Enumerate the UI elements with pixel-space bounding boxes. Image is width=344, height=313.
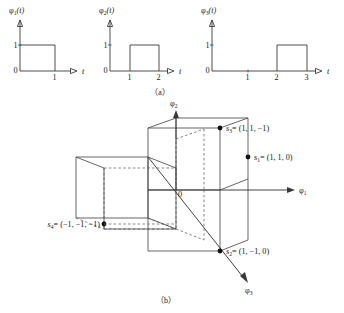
phi1-x-arrow (71, 68, 78, 73)
phi3-axis-arrow (240, 272, 248, 283)
plot-phi2: φ2(t) 1 0 1 2 t (99, 6, 182, 82)
cube-right-front-face (148, 128, 220, 190)
cube-right-edge-tl (148, 118, 176, 128)
phi1-ylabel-1: 1 (14, 41, 18, 50)
point-s1-marker (246, 155, 251, 160)
phi1-xlabel-0: 0 (14, 66, 18, 75)
phi2-xlabel-0: 0 (104, 66, 108, 75)
phi3-axis-label: φ3(t) (201, 6, 217, 16)
phi2-axis-arrow (173, 110, 179, 118)
phi3-x-axis-label: t (327, 67, 330, 76)
phi3-axis-3d-label: φ3 (245, 286, 253, 296)
point-s1-label: s1= (1, 1, 0) (254, 153, 293, 163)
phi2-xtick-2: 2 (157, 73, 161, 82)
cube-left-front-face (76, 157, 148, 218)
cube-right-edge-br (220, 179, 248, 190)
phi3-x-arrow (316, 68, 323, 73)
phi3-ylabel-1: 1 (206, 41, 210, 50)
phi1-axis-label: φ1(t) (9, 6, 25, 16)
hidden-edge-10 (176, 229, 204, 240)
phi3-axis-3d (148, 157, 243, 277)
plot-phi3: φ3(t) 1 0 1 2 3 t (201, 6, 330, 82)
phi2-ylabel-1: 1 (104, 41, 108, 50)
phi1-axis-3d-label: φ1 (299, 186, 307, 196)
phi2-xtick-1: 1 (128, 73, 132, 82)
cube-left-edge-br (148, 218, 176, 229)
phi2-x-arrow (168, 68, 175, 73)
plot-phi1: φ1(t) 1 0 1 t (9, 6, 85, 82)
caption-b: （b） (156, 296, 176, 305)
figure-svg: φ1(t) 1 0 1 t φ2(t) 1 0 1 2 t (0, 0, 344, 313)
phi3-xtick-2: 2 (275, 73, 279, 82)
phi3-xtick-3: 3 (305, 73, 309, 82)
signal-space-diagram: φ1 φ2 φ3 0 s3= (1, 1, −1) s1= ( (48, 99, 307, 296)
origin-label: 0 (178, 190, 182, 199)
figure-root: φ1(t) 1 0 1 t φ2(t) 1 0 1 2 t (0, 0, 344, 313)
phi3-xtick-1: 1 (246, 73, 250, 82)
phi1-axis-arrow (287, 187, 295, 193)
point-s3-label: s3= (1, 1, −1) (226, 124, 269, 134)
cube-left-edge-tl (76, 157, 104, 168)
phi1-pulse (20, 45, 55, 71)
point-s4-label: s4= (−1, −1, −1) (48, 220, 101, 230)
phi2-pulse (130, 45, 159, 71)
phi2-axis-label: φ2(t) (99, 6, 115, 16)
phi1-x-axis-label: t (82, 67, 85, 76)
point-s3-marker (218, 126, 223, 131)
phi1-xtick-1: 1 (53, 73, 57, 82)
phi2-axis-3d-label: φ2 (170, 99, 178, 109)
phi3-pulse (277, 45, 307, 71)
hidden-edge-9 (176, 129, 204, 139)
phi2-x-axis-label: t (179, 67, 182, 76)
phi3-xlabel-0: 0 (206, 66, 210, 75)
caption-a: （a） (150, 88, 170, 97)
point-s2-marker (218, 249, 223, 254)
point-s2-label: s2= (1, −1, 0) (226, 247, 269, 257)
